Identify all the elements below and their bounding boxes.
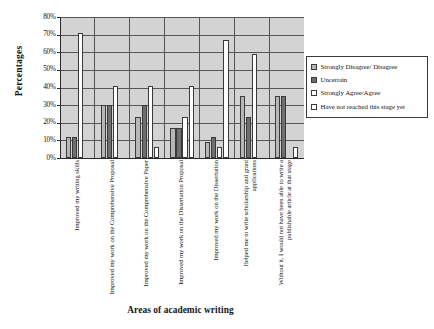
y-tick-label: 50% bbox=[28, 64, 56, 75]
x-category-label: Improved my writing skills bbox=[73, 160, 81, 298]
bar bbox=[281, 96, 286, 158]
legend-label: Strongly Disagree/ Disagree bbox=[321, 63, 398, 71]
bar bbox=[154, 147, 159, 158]
legend-item: Have not reached this stage yet bbox=[311, 100, 424, 113]
x-category-label: Improved my work on the Dissertation bbox=[212, 160, 220, 298]
legend-label: Have not reached this stage yet bbox=[321, 103, 405, 111]
bar bbox=[176, 128, 181, 158]
bar-group bbox=[61, 17, 96, 158]
x-category-label: Improved my work on the Comprehensive Pr… bbox=[108, 160, 116, 298]
x-category-label: Without it, I would not have been able t… bbox=[278, 160, 293, 298]
bar-group bbox=[165, 17, 200, 158]
bar bbox=[293, 147, 298, 158]
bar-chart-figure: Percentages 80%70%60%50%40%30%20%10%0% I… bbox=[0, 0, 434, 329]
y-tick-label: 20% bbox=[28, 117, 56, 128]
y-tick-label: 10% bbox=[28, 135, 56, 146]
legend-label: Uncertain bbox=[321, 76, 348, 84]
legend-item: Strongly Disagree/ Disagree bbox=[311, 60, 424, 73]
bar bbox=[135, 117, 140, 158]
bar bbox=[66, 137, 71, 158]
x-axis-category-labels: Improved my writing skillsImproved my wo… bbox=[60, 160, 303, 302]
x-label-cell: Improved my work on the Comprehensive Pr… bbox=[94, 160, 129, 302]
bar bbox=[101, 105, 106, 158]
bar bbox=[107, 105, 112, 158]
bar bbox=[170, 128, 175, 158]
legend-item: Uncertain bbox=[311, 73, 424, 86]
bar-group bbox=[200, 17, 235, 158]
bar bbox=[142, 105, 147, 158]
bar bbox=[78, 33, 83, 158]
x-axis-title: Areas of academic writing bbox=[59, 305, 302, 315]
y-tick-label: 0% bbox=[28, 153, 56, 164]
legend-swatch-icon bbox=[311, 64, 317, 70]
y-tick-label: 30% bbox=[28, 100, 56, 111]
bar-group bbox=[270, 17, 304, 158]
bar bbox=[211, 137, 216, 158]
x-label-cell: Improved my work on the Comprehensive Pa… bbox=[129, 160, 164, 302]
bar bbox=[240, 96, 245, 158]
y-tick-label: 70% bbox=[28, 29, 56, 40]
x-label-cell: Helped me to write scholarship and grant… bbox=[233, 160, 268, 302]
legend-label: Strongly Agree/Agree bbox=[321, 89, 381, 97]
bar bbox=[217, 147, 222, 158]
bar-groups bbox=[61, 17, 304, 158]
bar-group bbox=[130, 17, 165, 158]
bar bbox=[252, 54, 257, 158]
x-label-cell: Improved my writing skills bbox=[60, 160, 95, 302]
y-tick-label: 40% bbox=[28, 82, 56, 93]
plot-area bbox=[60, 17, 304, 159]
bar-group bbox=[235, 17, 270, 158]
x-category-label: Improved my work on the Comprehensive Pa… bbox=[143, 160, 151, 298]
x-label-cell: Without it, I would not have been able t… bbox=[268, 160, 303, 302]
y-axis-title: Percentages bbox=[12, 21, 26, 121]
bar bbox=[223, 40, 228, 158]
y-axis-tick-labels: 80%70%60%50%40%30%20%10%0% bbox=[28, 10, 56, 166]
x-category-label: Improved my work on the Dissertation Pro… bbox=[177, 160, 185, 298]
legend-swatch-icon bbox=[311, 77, 317, 83]
bar bbox=[246, 117, 251, 158]
y-tick-label: 80% bbox=[28, 12, 56, 23]
bar bbox=[182, 117, 187, 158]
bar bbox=[72, 137, 77, 158]
bar bbox=[189, 86, 194, 158]
legend-swatch-icon bbox=[311, 104, 317, 110]
bar bbox=[113, 86, 118, 158]
y-tick-mark bbox=[57, 158, 61, 159]
y-tick-label: 60% bbox=[28, 47, 56, 58]
bar bbox=[275, 96, 280, 158]
legend-swatch-icon bbox=[311, 90, 317, 96]
x-category-label: Helped me to write scholarship and grant… bbox=[243, 160, 258, 298]
legend-item: Strongly Agree/Agree bbox=[311, 87, 424, 100]
chart-legend: Strongly Disagree/ DisagreeUncertainStro… bbox=[306, 56, 428, 118]
x-label-cell: Improved my work on the Dissertation bbox=[198, 160, 233, 302]
bar-group bbox=[95, 17, 130, 158]
bar bbox=[205, 142, 210, 158]
x-label-cell: Improved my work on the Dissertation Pro… bbox=[164, 160, 199, 302]
bar bbox=[148, 86, 153, 158]
